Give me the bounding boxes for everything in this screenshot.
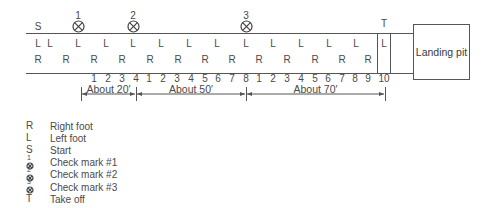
- legend-item: 3Check mark #3: [26, 181, 117, 193]
- left-foot-mark: L: [298, 39, 304, 49]
- left-foot-mark: L: [243, 39, 249, 49]
- check-mark-number: 3: [240, 11, 252, 20]
- check-mark-1: 1: [72, 11, 84, 33]
- right-foot-mark: R: [118, 55, 125, 65]
- left-foot-mark: L: [35, 39, 41, 49]
- legend-item: RRight foot: [26, 120, 93, 132]
- stride-count: 10: [378, 74, 389, 84]
- right-foot-mark: R: [364, 55, 371, 65]
- distance-label: About 50′: [169, 84, 213, 95]
- right-foot-mark: R: [34, 55, 41, 65]
- stride-count: 8: [352, 74, 358, 84]
- left-foot-mark: L: [47, 39, 53, 49]
- left-foot-mark: L: [381, 39, 387, 49]
- landing-pit: Landing pit: [413, 24, 470, 80]
- legend-symbol: T: [26, 193, 50, 205]
- left-foot-mark: L: [214, 39, 220, 49]
- stride-count: 7: [229, 74, 235, 84]
- left-foot-mark: L: [353, 39, 359, 49]
- check-mark-number: 1: [72, 11, 84, 20]
- legend-label: Take off: [50, 194, 85, 205]
- left-foot-mark: L: [130, 39, 136, 49]
- legend-label: Left foot: [50, 133, 86, 144]
- distance-tick: [136, 87, 137, 101]
- right-foot-mark: R: [146, 55, 153, 65]
- legend-label: Check mark #1: [50, 157, 117, 168]
- legend-item: SStart: [26, 144, 71, 156]
- takeoff-board-line-right: [390, 33, 391, 73]
- legend-label: Start: [50, 145, 71, 156]
- stride-count: 1: [256, 74, 262, 84]
- stride-count: 7: [339, 74, 345, 84]
- right-foot-mark: R: [90, 55, 97, 65]
- legend-item: TTake off: [26, 193, 85, 205]
- takeoff-label: T: [381, 19, 387, 29]
- legend-symbol: L: [26, 132, 50, 144]
- legend-label: Check mark #2: [50, 169, 117, 180]
- takeoff-board-line-left: [377, 33, 378, 73]
- left-foot-mark: L: [186, 39, 192, 49]
- stride-count: 6: [215, 74, 221, 84]
- check-mark-icon: [72, 20, 84, 33]
- stride-count: 2: [160, 74, 166, 84]
- legend-item: 2Check mark #2: [26, 169, 117, 181]
- check-mark-number: 2: [127, 11, 139, 20]
- distance-tick: [81, 87, 82, 101]
- right-foot-mark: R: [255, 55, 262, 65]
- check-mark-2: 2: [127, 11, 139, 33]
- left-foot-mark: L: [158, 39, 164, 49]
- right-foot-mark: R: [311, 55, 318, 65]
- left-foot-mark: L: [75, 39, 81, 49]
- right-foot-mark: R: [338, 55, 345, 65]
- runway-top-edge: [26, 33, 413, 34]
- right-foot-mark: R: [283, 55, 290, 65]
- stride-count: 3: [284, 74, 290, 84]
- legend-symbol: R: [26, 120, 50, 132]
- start-label: S: [35, 22, 42, 32]
- stride-count: 8: [243, 74, 249, 84]
- check-mark-icon: 3: [26, 181, 50, 193]
- stride-count: 1: [146, 74, 152, 84]
- stride-count: 9: [365, 74, 371, 84]
- check-mark-3: 3: [240, 11, 252, 33]
- left-foot-mark: L: [270, 39, 276, 49]
- left-foot-mark: L: [103, 39, 109, 49]
- left-foot-mark: L: [326, 39, 332, 49]
- landing-pit-label: Landing pit: [416, 46, 467, 58]
- distance-tick: [385, 87, 386, 101]
- check-mark-icon: [240, 20, 252, 33]
- legend-item: LLeft foot: [26, 132, 86, 144]
- distance-label: About 20′: [86, 84, 130, 95]
- right-foot-mark: R: [174, 55, 181, 65]
- distance-label: About 70′: [293, 84, 337, 95]
- legend-label: Right foot: [50, 121, 93, 132]
- distance-tick: [246, 87, 247, 101]
- legend-item: 1Check mark #1: [26, 157, 117, 169]
- check-mark-icon: [127, 20, 139, 33]
- right-foot-mark: R: [62, 55, 69, 65]
- stride-count: 4: [133, 74, 139, 84]
- legend-label: Check mark #3: [50, 182, 117, 193]
- stride-count: 2: [270, 74, 276, 84]
- right-foot-mark: R: [228, 55, 235, 65]
- right-foot-mark: R: [201, 55, 208, 65]
